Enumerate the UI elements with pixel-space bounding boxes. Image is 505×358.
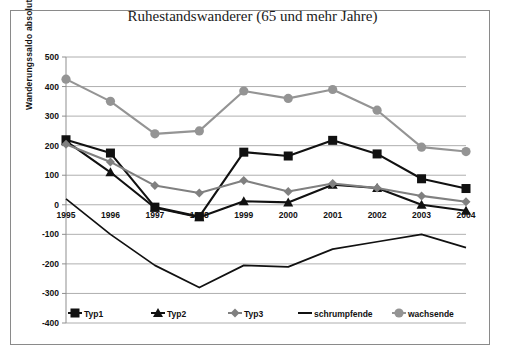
x-tick-label: 2003 [412, 210, 431, 220]
y-tick-label: -200 [42, 259, 59, 269]
gridlines [62, 57, 466, 323]
chart-legend: Typ1Typ2Typ3schrumpfendewachsende [68, 308, 454, 319]
x-tick-label: 2001 [323, 210, 342, 220]
x-tick-label: 1996 [101, 210, 120, 220]
plot-area: 5004003002001000-100-200-300-400 1995199… [0, 0, 505, 358]
y-tick-labels: 5004003002001000-100-200-300-400 [42, 52, 59, 328]
y-tick-label: 200 [45, 141, 59, 151]
y-tick-label: -100 [42, 229, 59, 239]
y-tick-label: 500 [45, 52, 59, 62]
x-tick-label: 2002 [368, 210, 387, 220]
legend-item-typ1[interactable]: Typ1 [68, 309, 103, 319]
legend-label: wachsende [407, 309, 454, 319]
legend-item-schrumpfende[interactable]: schrumpfende [298, 309, 373, 319]
series-schrumpfende [66, 199, 466, 288]
legend-label: Typ2 [167, 309, 186, 319]
chart-svg: 5004003002001000-100-200-300-400 1995199… [0, 0, 505, 358]
y-tick-label: -400 [42, 318, 59, 328]
x-tick-label: 2000 [279, 210, 298, 220]
legend-item-typ2[interactable]: Typ2 [151, 308, 186, 319]
x-tick-label: 1999 [234, 210, 253, 220]
legend-label: Typ1 [84, 309, 103, 319]
y-tick-label: 300 [45, 111, 59, 121]
y-tick-label: 0 [54, 200, 59, 210]
data-series-layer [61, 75, 471, 288]
legend-item-wachsende[interactable]: wachsende [392, 308, 454, 318]
series-typ1 [62, 135, 471, 221]
legend-label: schrumpfende [314, 309, 373, 319]
legend-label: Typ3 [244, 309, 263, 319]
x-tick-label: 1995 [57, 210, 76, 220]
y-tick-label: -300 [42, 288, 59, 298]
y-tick-label: 100 [45, 170, 59, 180]
x-tick-labels: 1995199619971998199920002001200220032004 [57, 210, 476, 220]
series-typ2 [61, 136, 471, 221]
legend-item-typ3[interactable]: Typ3 [228, 309, 263, 319]
y-tick-label: 400 [45, 82, 59, 92]
